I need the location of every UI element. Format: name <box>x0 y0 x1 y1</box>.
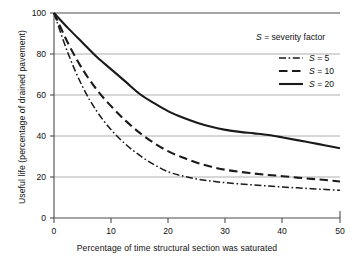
legend-symbol-s-10: S <box>309 66 315 76</box>
y-tick-marks <box>50 13 54 218</box>
legend-value-s-10: = 10 <box>317 66 334 76</box>
x-tick-label-50: 50 <box>325 226 354 236</box>
chart-figure: 100 80 60 40 20 0 0 10 20 30 40 50 Perce… <box>0 0 354 264</box>
x-tick-label-10: 10 <box>96 226 126 236</box>
legend-label-s-10: S = 10 <box>309 66 334 76</box>
legend-title-symbol: S <box>256 32 262 42</box>
x-tick-label-30: 30 <box>210 226 240 236</box>
x-axis-title: Percentage of time structural section wa… <box>0 243 354 253</box>
x-tick-label-20: 20 <box>153 226 183 236</box>
x-tick-label-0: 0 <box>39 226 69 236</box>
legend-title: S = severity factor <box>256 32 325 42</box>
legend-symbol-s-5: S <box>309 53 315 63</box>
legend-samples <box>279 58 303 84</box>
legend-value-s-5: = 5 <box>317 53 329 63</box>
y-axis-title: Useful life (percentage of drained pavem… <box>17 7 27 227</box>
legend-label-s-5: S = 5 <box>309 53 329 63</box>
x-tick-label-40: 40 <box>267 226 297 236</box>
legend-label-s-20: S = 20 <box>309 79 334 89</box>
legend-title-text: = severity factor <box>264 32 325 42</box>
legend-value-s-20: = 20 <box>317 79 334 89</box>
legend-symbol-s-20: S <box>309 79 315 89</box>
x-tick-marks <box>54 218 340 223</box>
